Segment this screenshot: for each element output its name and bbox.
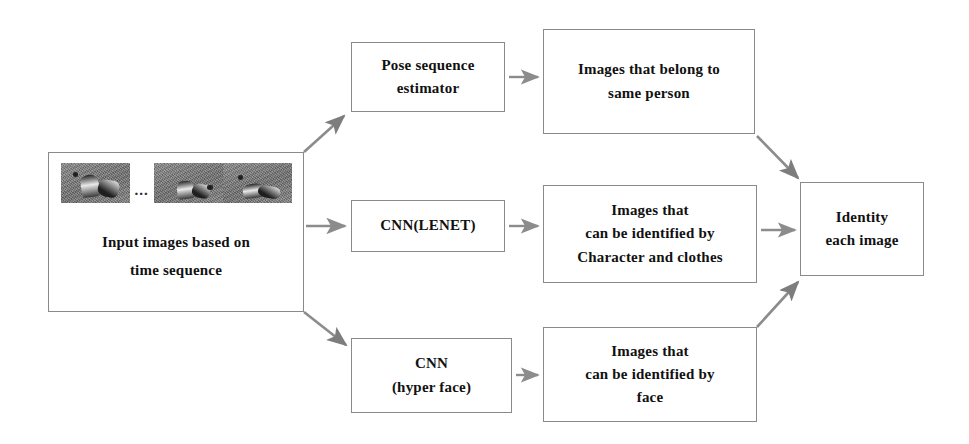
clothes-line-2: can be identified by: [585, 222, 714, 245]
hyperface-label-line-2: (hyper face): [392, 376, 471, 399]
face-line-2: can be identified by: [585, 363, 714, 386]
diagram-canvas: ... Input images based on time sequence …: [0, 0, 969, 444]
pose-sequence-estimator-box[interactable]: Pose sequence estimator: [351, 42, 505, 112]
identity-each-image-box[interactable]: Identity each image: [800, 182, 924, 276]
clothes-line-1: Images that: [611, 199, 689, 222]
cnn-lenet-box[interactable]: CNN(LENET): [351, 200, 505, 252]
pose-label-line-1: Pose sequence: [381, 54, 474, 77]
face-line-3: face: [637, 386, 664, 409]
same-person-result-box[interactable]: Images that belong to same person: [543, 29, 755, 134]
cnn-hyperface-box[interactable]: CNN (hyper face): [351, 338, 512, 413]
video-frame-thumbnail-1: [61, 163, 130, 203]
arrow-same-person-to-identity: [757, 136, 798, 178]
arrow-input-to-pose: [304, 116, 344, 152]
lenet-label-line-1: CNN(LENET): [380, 214, 475, 237]
face-result-box[interactable]: Images that can be identified by face: [543, 327, 757, 422]
face-line-1: Images that: [611, 340, 689, 363]
same-person-line-1: Images that belong to: [578, 58, 720, 81]
video-frame-thumbnail-3: [223, 163, 292, 203]
identity-line-2: each image: [825, 229, 898, 252]
same-person-line-2: same person: [608, 82, 690, 105]
input-caption: Input images based on time sequence: [102, 229, 250, 285]
character-clothes-result-box[interactable]: Images that can be identified by Charact…: [543, 185, 757, 283]
input-caption-line-2: time sequence: [102, 257, 250, 285]
thumbnail-strip: ...: [49, 163, 303, 203]
hyperface-label-line-1: CNN: [415, 352, 448, 375]
pose-label-line-2: estimator: [397, 77, 460, 100]
video-frame-thumbnail-2: [154, 163, 223, 203]
arrow-face-to-identity: [757, 282, 798, 327]
identity-line-1: Identity: [836, 206, 888, 229]
frames-ellipsis: ...: [130, 179, 154, 203]
clothes-line-3: Character and clothes: [577, 246, 723, 269]
arrow-input-to-hyperface: [304, 312, 346, 345]
input-images-box[interactable]: ... Input images based on time sequence: [48, 152, 304, 312]
input-caption-line-1: Input images based on: [102, 229, 250, 257]
